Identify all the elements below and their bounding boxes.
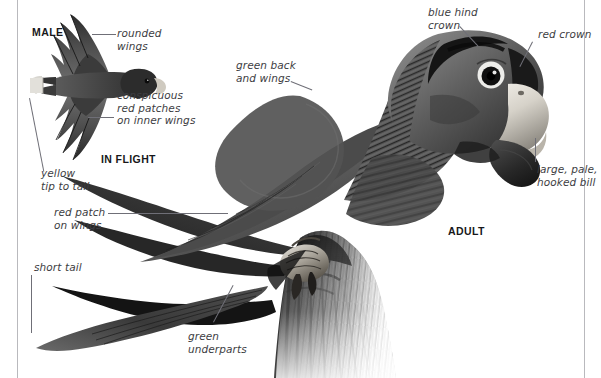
label-yellow-tip-to-tail: yellow tip to tail <box>41 167 89 192</box>
label-short-tail: short tail <box>34 261 82 274</box>
leader-short-tail <box>31 275 32 333</box>
label-green-back-and-wings: green back and wings <box>236 59 296 84</box>
parrot-foot <box>280 238 329 300</box>
leader-large-pale-hooked-bill <box>535 138 536 162</box>
label-red-patch-on-wings: red patch on wings <box>54 206 105 231</box>
label-rounded-wings: rounded wings <box>117 27 162 52</box>
heading-in-flight: IN FLIGHT <box>101 153 156 166</box>
leader-red-patch-on-wings <box>108 213 228 214</box>
heading-male: MALE <box>32 26 63 39</box>
label-blue-hind-crown: blue hind crown <box>428 6 478 31</box>
label-red-crown: red crown <box>538 28 591 41</box>
field-guide-plate: MALE rounded wings conspicuous red patch… <box>0 0 601 378</box>
right-column-rule <box>584 0 585 378</box>
label-large-pale-hooked-bill: large, pale, hooked bill <box>537 163 597 188</box>
label-conspicuous-red-patches: conspicuous red patches on inner wings <box>117 89 195 127</box>
heading-adult: ADULT <box>448 225 485 238</box>
label-green-underparts: green underparts <box>188 330 247 355</box>
left-column-rule <box>17 0 18 378</box>
branch-perch <box>260 228 410 378</box>
leader-rounded-wings <box>92 34 116 35</box>
leader-conspicuous-red-patches <box>88 117 114 118</box>
leader-red-crown <box>519 42 533 67</box>
leader-green-underparts <box>213 285 234 323</box>
